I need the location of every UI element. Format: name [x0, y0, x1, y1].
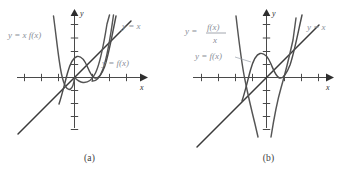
- label-x-times-f: y = x f(x): [7, 30, 41, 40]
- label-f-over-x: y = f(x) x: [184, 22, 226, 45]
- y-axis-arrowhead: [263, 9, 271, 16]
- panel-b: y = f(x) x y = f(x) y = x y x (b): [179, 0, 358, 169]
- panel-a-caption: (a): [0, 153, 179, 163]
- y-axis-label: y: [271, 9, 276, 18]
- label-function: y = f(x): [194, 51, 222, 61]
- curve-f-over-x-left: [236, 16, 258, 137]
- x-axis-label: x: [139, 83, 144, 92]
- curve-f: [242, 15, 302, 101]
- panel-b-caption: (b): [179, 153, 358, 163]
- panel-a: y = x f(x) y = x y = f(x) y x (a): [0, 0, 179, 169]
- panel-b-plot: y = f(x) x y = f(x) y = x y x: [179, 0, 358, 169]
- y-axis-label: y: [79, 9, 84, 18]
- figure-root: y = x f(x) y = x y = f(x) y x (a): [0, 0, 358, 169]
- panel-a-plot: y = x f(x) y = x y = f(x) y x: [0, 0, 179, 169]
- label-f-over-x-numerator: f(x): [207, 22, 220, 32]
- label-identity-line: y = x: [121, 21, 141, 31]
- label-identity-line: y = x: [306, 22, 326, 32]
- y-axis-arrowhead: [71, 9, 79, 16]
- curve-x-times-f: [54, 15, 110, 89]
- x-axis-arrowhead: [326, 74, 334, 82]
- x-axis-arrowhead: [140, 74, 148, 82]
- x-axis-label: x: [325, 83, 330, 92]
- label-leader-line: [235, 57, 251, 62]
- label-f-over-x-prefix: y =: [184, 26, 197, 36]
- label-f-over-x-denominator: x: [212, 35, 217, 45]
- label-function: y = f(x): [101, 58, 129, 68]
